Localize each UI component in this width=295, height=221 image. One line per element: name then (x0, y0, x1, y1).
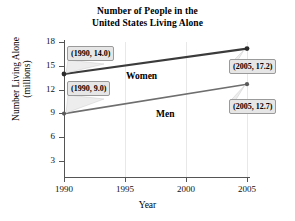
annotation-women-1990: (1990, 14.0) (67, 46, 114, 61)
series-label-men: Men (156, 109, 174, 119)
data-point-men-1990 (62, 112, 66, 116)
annotation-men-2005: (2005, 12.7) (229, 99, 276, 114)
data-point-women-2005 (245, 46, 250, 51)
annotation-women-2005: (2005, 17.2) (229, 59, 276, 74)
data-point-men-2005 (245, 82, 249, 86)
annotation-men-1990: (1990, 9.0) (67, 81, 110, 96)
data-point-women-1990 (62, 72, 67, 77)
series-label-women: Women (126, 71, 157, 81)
chart-figure: Number of People in the United States Li… (0, 0, 295, 221)
